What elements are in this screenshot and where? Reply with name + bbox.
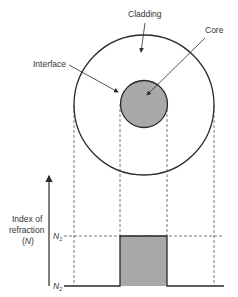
interface-label: Interface [33, 59, 66, 69]
fiber-index-diagram: Cladding Core Interface Index of refract… [0, 0, 238, 297]
y-axis-label-3: (N) [22, 236, 34, 246]
y-axis-label-1: Index of [12, 214, 43, 224]
n2-label: N2 [53, 281, 62, 292]
n1-label: N1 [53, 231, 62, 242]
cladding-label: Cladding [128, 9, 162, 19]
core-circle [121, 81, 168, 128]
y-axis-label-2: refraction [9, 225, 45, 235]
core-index-step-fill [120, 236, 167, 286]
core-label: Core [205, 25, 224, 35]
